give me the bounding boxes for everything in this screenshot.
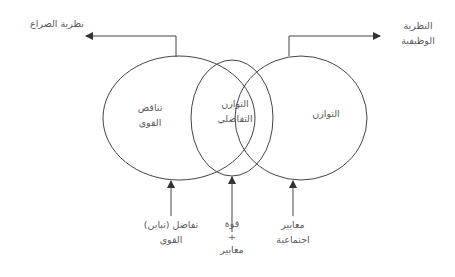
arrow-to-conflict-theory	[86, 36, 176, 57]
conflict-theory-text: نظرية الصراع	[22, 16, 92, 31]
bottom-right-line1: معايير	[261, 217, 325, 232]
middle-ellipse-line1: التوازن	[207, 96, 263, 111]
left-ellipse-label: تناقض القوى	[120, 100, 180, 130]
bottom-left-line1: تفاضل (تباين)	[126, 217, 216, 232]
bottom-right-line2: اجتماعية	[261, 232, 325, 247]
arrow-to-functional-theory	[289, 36, 380, 56]
functional-theory-line2: الوظيفية	[393, 33, 443, 48]
bottom-left-line2: القوى	[126, 232, 216, 247]
functional-theory-label: النظرية الوظيفية	[393, 18, 443, 48]
bottom-middle-label: قوة + معايير	[212, 217, 252, 256]
left-ellipse-line1: تناقض	[120, 100, 180, 115]
right-ellipse-line1: التوازن	[296, 106, 356, 121]
bottom-middle-line3: معايير	[212, 243, 252, 256]
conflict-theory-label: نظرية الصراع	[22, 16, 92, 31]
right-ellipse-label: التوازن	[296, 106, 356, 121]
bottom-middle-line1: قوة	[212, 217, 252, 230]
left-ellipse-line2: القوى	[120, 115, 180, 130]
bottom-middle-plus: +	[212, 230, 252, 243]
bottom-left-label: تفاضل (تباين) القوى	[126, 217, 216, 247]
middle-ellipse-line2: التفاضلي	[207, 111, 263, 126]
bottom-right-label: معايير اجتماعية	[261, 217, 325, 247]
middle-ellipse-label: التوازن التفاضلي	[207, 96, 263, 126]
functional-theory-line1: النظرية	[393, 18, 443, 33]
